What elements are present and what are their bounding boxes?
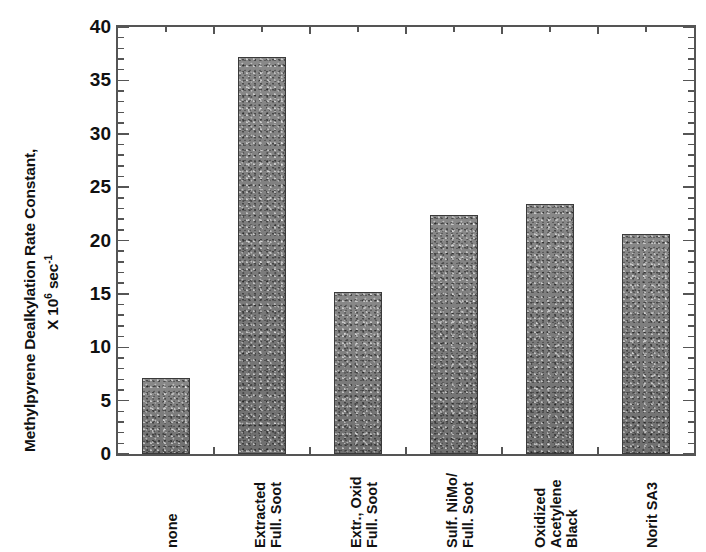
y-axis-minor-tick [118, 165, 124, 167]
y-axis-major-tick [118, 26, 129, 28]
y-axis-tick-label: 25 [90, 176, 111, 198]
bar-chart-figure: Methylpyrene Dealkylation Rate Constant,… [0, 0, 706, 552]
y-axis-minor-tick [118, 443, 124, 445]
y-axis-minor-tick [118, 144, 124, 146]
y-axis-title-line-2: X 106 sec-1 [43, 255, 62, 330]
x-axis-minor-tick [261, 27, 263, 32]
x-axis-tick [213, 447, 215, 454]
y-axis-minor-tick [118, 48, 124, 50]
plot-area: 0510152025303540 [116, 25, 696, 456]
y-axis-major-tick [118, 400, 129, 402]
y-axis-minor-tick [688, 122, 694, 124]
y-axis-minor-tick [118, 229, 124, 231]
x-axis-minor-tick [165, 27, 167, 32]
x-axis-tick [405, 447, 407, 454]
y-axis-minor-tick [688, 176, 694, 178]
y-axis-minor-tick [688, 304, 694, 306]
y-axis-minor-tick [118, 304, 124, 306]
x-axis-tick-label-line: Full. Soot [364, 476, 380, 548]
y-axis-minor-tick [118, 357, 124, 359]
x-axis-tick [405, 27, 407, 34]
y-axis-minor-tick [118, 379, 124, 381]
y-axis-minor-tick [688, 325, 694, 327]
y-axis-minor-tick [688, 144, 694, 146]
y-axis-minor-tick [118, 197, 124, 199]
y-axis-tick-label: 0 [100, 443, 111, 465]
y-axis-minor-tick [688, 282, 694, 284]
y-axis-minor-tick [118, 368, 124, 370]
x-axis-tick [309, 447, 311, 454]
y-axis-major-tick [118, 186, 129, 188]
y-axis-title-line-1: Methylpyrene Dealkylation Rate Constant, [21, 149, 39, 452]
y-axis-major-tick [683, 453, 694, 455]
y-axis-minor-tick [688, 261, 694, 263]
y-axis-minor-tick [688, 389, 694, 391]
x-axis-tick-label-line: none [164, 513, 180, 548]
y-axis-major-tick [118, 293, 129, 295]
x-axis-minor-tick [549, 27, 551, 32]
y-axis-major-tick [683, 400, 694, 402]
y-axis-minor-tick [118, 218, 124, 220]
x-axis-tick-label-line: Oxidized [532, 479, 548, 548]
y-axis-minor-tick [118, 389, 124, 391]
y-axis-minor-tick [688, 154, 694, 156]
y-axis-minor-tick [118, 411, 124, 413]
y-axis-minor-tick [688, 58, 694, 60]
x-axis-tick [501, 27, 503, 34]
x-axis-tick-label-line: Full. Soot [460, 473, 476, 548]
y-axis-minor-tick [688, 272, 694, 274]
y-axis-major-tick [118, 453, 129, 455]
y-axis-major-tick [683, 186, 694, 188]
y-axis-tick-label: 5 [100, 390, 111, 412]
y-axis-minor-tick [118, 69, 124, 71]
y-axis-minor-tick [688, 411, 694, 413]
y-axis-major-tick [118, 133, 129, 135]
x-axis-tick-label-line: Norit SA3 [644, 482, 660, 548]
x-axis-minor-tick [645, 27, 647, 32]
x-axis-tick [309, 27, 311, 34]
y-axis-minor-tick [688, 208, 694, 210]
y-axis-minor-tick [118, 421, 124, 423]
y-axis-minor-tick [118, 272, 124, 274]
x-axis-tick-label-line: Black [564, 479, 580, 548]
y-axis-title-units-superscript: -1 [43, 255, 54, 264]
y-axis-minor-tick [118, 90, 124, 92]
y-axis-major-tick [683, 26, 694, 28]
y-axis-minor-tick [688, 101, 694, 103]
y-axis-minor-tick [118, 122, 124, 124]
y-axis-minor-tick [118, 37, 124, 39]
y-axis-tick-label: 20 [90, 230, 111, 252]
x-axis-tick [213, 27, 215, 34]
y-axis-minor-tick [688, 37, 694, 39]
bar [238, 57, 286, 454]
y-axis-minor-tick [688, 69, 694, 71]
y-axis-minor-tick [688, 336, 694, 338]
y-axis-minor-tick [118, 101, 124, 103]
y-axis-minor-tick [688, 314, 694, 316]
y-axis-minor-tick [688, 357, 694, 359]
x-axis-tick-label-line: Extr., Oxid [348, 476, 364, 548]
x-axis-tick [501, 447, 503, 454]
y-axis-tick-label: 30 [90, 123, 111, 145]
y-axis-minor-tick [118, 282, 124, 284]
bar [526, 204, 574, 454]
y-axis-major-tick [683, 133, 694, 135]
y-axis-minor-tick [118, 314, 124, 316]
bar [334, 292, 382, 454]
x-axis-tick [597, 27, 599, 34]
x-axis-tick-label-line: Extracted [252, 482, 268, 548]
y-axis-minor-tick [118, 58, 124, 60]
y-axis-minor-tick [118, 112, 124, 114]
y-axis-title-units-mid: sec [44, 264, 61, 294]
y-axis-minor-tick [688, 90, 694, 92]
x-axis-minor-tick [453, 27, 455, 32]
y-axis-major-tick [683, 293, 694, 295]
y-axis-tick-label: 15 [90, 283, 111, 305]
x-axis-tick [597, 447, 599, 454]
y-axis-minor-tick [118, 261, 124, 263]
x-axis-tick-label-line: Acetylene [548, 479, 564, 548]
y-axis-minor-tick [688, 48, 694, 50]
y-axis-major-tick [683, 80, 694, 82]
y-axis-minor-tick [118, 154, 124, 156]
y-axis-minor-tick [688, 421, 694, 423]
